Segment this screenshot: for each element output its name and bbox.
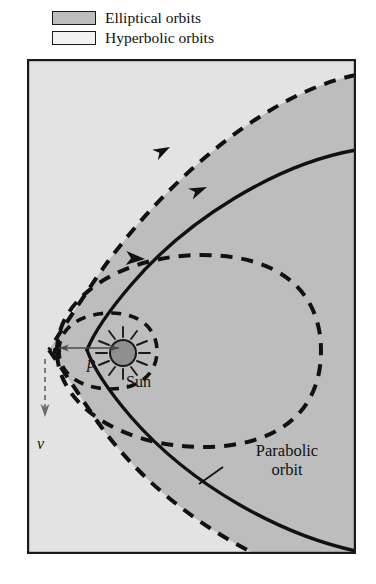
sun-disc [110,340,136,366]
hyperbolic-orbits-swatch [52,31,96,45]
legend: Elliptical orbits Hyperbolic orbits [52,8,352,48]
parabolic-orbit-label-line2: orbit [232,460,342,479]
plot-frame: Sun p v Parabolic orbit [27,59,356,554]
legend-item-elliptical: Elliptical orbits [52,8,352,28]
velocity-label: v [37,435,44,452]
elliptical-orbits-swatch [52,11,96,25]
legend-label-hyperbolic: Hyperbolic orbits [105,30,214,46]
sun-label: Sun [126,373,151,390]
orbit-diagram-figure: Elliptical orbits Hyperbolic orbits [0,0,376,584]
legend-item-hyperbolic: Hyperbolic orbits [52,28,352,48]
parabolic-orbit-label-line1: Parabolic [232,441,342,460]
parabolic-orbit-label: Parabolic orbit [232,441,342,480]
perihelion-distance-label: p [87,354,96,372]
legend-label-elliptical: Elliptical orbits [105,10,201,26]
